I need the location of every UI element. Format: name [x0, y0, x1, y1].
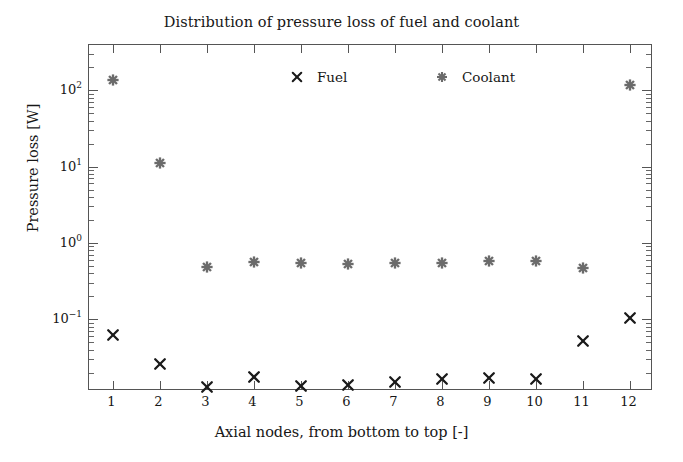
y-axis-minor-tick: [89, 174, 94, 175]
y-axis-minor-tick: [646, 107, 651, 108]
y-axis-minor-tick: [89, 327, 94, 328]
x-axis-tick-label: 11: [573, 394, 590, 409]
y-axis-minor-tick: [646, 250, 651, 251]
data-point-coolant-node-9: [480, 252, 498, 270]
data-point-fuel-node-9: [480, 369, 498, 387]
y-axis-minor-tick: [646, 323, 651, 324]
y-axis-major-tick: [642, 319, 651, 320]
y-axis-tick-label: 10−1: [52, 311, 82, 326]
y-axis-minor-tick: [646, 373, 651, 374]
data-point-coolant-node-4: [245, 253, 263, 271]
y-axis-major-tick: [89, 90, 98, 91]
y-axis-minor-tick: [646, 220, 651, 221]
x-axis-tick-label: 1: [107, 394, 115, 409]
data-point-coolant-node-8: [433, 254, 451, 272]
y-axis-major-tick: [642, 90, 651, 91]
y-axis-minor-tick: [89, 342, 94, 343]
x-axis-major-tick: [301, 45, 302, 53]
x-axis-major-tick: [630, 381, 631, 389]
y-axis-minor-tick: [646, 130, 651, 131]
x-axis-major-tick: [254, 45, 255, 53]
x-axis-major-tick: [442, 45, 443, 53]
y-axis-minor-tick: [646, 54, 651, 55]
y-axis-minor-tick: [646, 260, 651, 261]
y-axis-minor-tick: [89, 246, 94, 247]
data-point-fuel-node-4: [245, 368, 263, 386]
y-axis-minor-tick: [89, 178, 94, 179]
x-axis-tick-label: 10: [526, 394, 543, 409]
y-axis-major-tick: [89, 243, 98, 244]
x-axis-tick-label: 6: [342, 394, 350, 409]
y-axis-minor-tick: [646, 206, 651, 207]
legend-entry-fuel[interactable]: Fuel: [289, 69, 347, 85]
y-axis-minor-tick: [646, 98, 651, 99]
y-axis-minor-tick: [89, 107, 94, 108]
x-axis-major-tick: [207, 45, 208, 53]
x-axis-tick-label: 2: [154, 394, 162, 409]
data-point-fuel-node-5: [292, 377, 310, 395]
data-point-fuel-node-7: [386, 373, 404, 391]
y-axis-minor-tick: [646, 283, 651, 284]
x-axis-major-tick: [583, 45, 584, 53]
x-axis-major-tick: [348, 45, 349, 53]
x-axis-tick-label: 8: [436, 394, 444, 409]
y-axis-major-tick: [642, 243, 651, 244]
y-axis-minor-tick: [89, 206, 94, 207]
x-axis-tick-label: 9: [483, 394, 491, 409]
data-point-fuel-node-11: [574, 332, 592, 350]
x-axis-title: Axial nodes, from bottom to top [-]: [0, 424, 683, 440]
data-point-fuel-node-2: [151, 355, 169, 373]
y-axis-major-tick: [89, 167, 98, 168]
x-axis-major-tick: [160, 45, 161, 53]
y-axis-minor-tick: [89, 359, 94, 360]
y-axis-minor-tick: [646, 296, 651, 297]
x-axis-major-tick: [583, 381, 584, 389]
data-point-fuel-node-12: [621, 309, 639, 327]
data-point-coolant-node-6: [339, 255, 357, 273]
y-axis-minor-tick: [89, 255, 94, 256]
y-axis-minor-tick: [646, 359, 651, 360]
chart-title: Distribution of pressure loss of fuel an…: [0, 14, 683, 30]
y-axis-minor-tick: [89, 94, 94, 95]
y-axis-minor-tick: [646, 246, 651, 247]
y-axis-minor-tick: [646, 350, 651, 351]
y-axis-minor-tick: [89, 331, 94, 332]
data-point-fuel-node-6: [339, 376, 357, 394]
y-axis-minor-tick: [89, 121, 94, 122]
x-marker-icon: [289, 69, 305, 85]
y-axis-minor-tick: [89, 260, 94, 261]
y-axis-minor-tick: [89, 296, 94, 297]
y-axis-minor-tick: [89, 190, 94, 191]
y-axis-minor-tick: [646, 327, 651, 328]
y-axis-minor-tick: [646, 121, 651, 122]
x-axis-tick-labels: 123456789101112: [88, 394, 652, 416]
y-axis-tick-label: 100: [60, 234, 82, 249]
y-axis-minor-tick: [89, 250, 94, 251]
data-point-coolant-node-5: [292, 254, 310, 272]
y-axis-minor-tick: [646, 144, 651, 145]
y-axis-minor-tick: [89, 323, 94, 324]
y-axis-minor-tick: [646, 197, 651, 198]
x-axis-tick-label: 7: [389, 394, 397, 409]
x-axis-major-tick: [630, 45, 631, 53]
asterisk-marker-icon: [434, 69, 450, 85]
data-point-coolant-node-1: [104, 71, 122, 89]
y-axis-minor-tick: [89, 336, 94, 337]
y-axis-minor-tick: [646, 67, 651, 68]
x-axis-major-tick: [489, 45, 490, 53]
y-axis-minor-tick: [646, 273, 651, 274]
data-point-coolant-node-11: [574, 259, 592, 277]
x-axis-tick-label: 5: [295, 394, 303, 409]
y-axis-minor-tick: [89, 373, 94, 374]
x-axis-major-tick: [536, 45, 537, 53]
y-axis-minor-tick: [89, 273, 94, 274]
y-axis-minor-tick: [89, 197, 94, 198]
legend-entry-coolant[interactable]: Coolant: [434, 69, 515, 85]
y-axis-major-tick: [89, 319, 98, 320]
data-point-fuel-node-8: [433, 370, 451, 388]
y-axis-minor-tick: [89, 266, 94, 267]
y-axis-minor-tick: [646, 190, 651, 191]
x-axis-major-tick: [113, 381, 114, 389]
data-point-fuel-node-1: [104, 326, 122, 344]
y-axis-minor-tick: [89, 130, 94, 131]
